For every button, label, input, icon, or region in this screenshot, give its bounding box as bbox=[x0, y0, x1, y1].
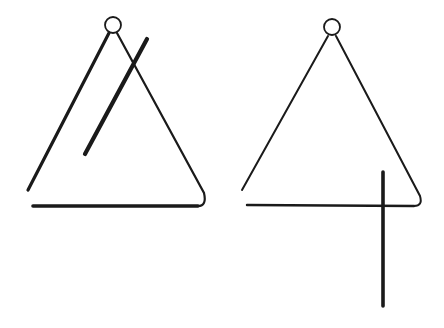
right-triangle-figure bbox=[242, 19, 421, 306]
beater-stick bbox=[85, 39, 147, 154]
triangle-bottom-bar bbox=[247, 205, 414, 206]
left-triangle-figure bbox=[28, 17, 205, 206]
triangle-right-leg-and-corner bbox=[336, 36, 421, 206]
hanging-ring-icon bbox=[105, 17, 121, 33]
triangle-left-leg bbox=[28, 33, 109, 190]
triangle-instruments-drawing bbox=[0, 0, 444, 328]
illustration-canvas bbox=[0, 0, 444, 328]
triangle-right-leg-and-corner bbox=[117, 33, 205, 206]
hanging-ring-icon bbox=[324, 19, 340, 35]
triangle-left-leg bbox=[242, 36, 328, 190]
